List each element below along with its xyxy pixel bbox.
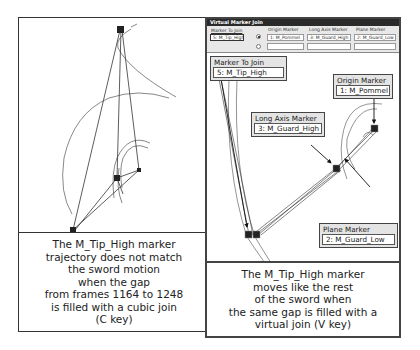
cubic-join-viewport [18, 17, 210, 233]
callout-marker-to-join: Marker To Join 5: M_Tip_High [210, 56, 287, 81]
caption-line: is filled with a cubic join [51, 301, 177, 314]
callout-plane-marker: Plane Marker 2: M_Guard_Low [319, 223, 398, 248]
caption-line: the same gap is filled with a [229, 306, 377, 319]
caption-line: virtual join (V key) [255, 318, 351, 331]
cubic-join-caption: The M_Tip_High marker trajectory does no… [18, 232, 210, 332]
guard-marker-icon [114, 175, 120, 181]
caption-line: (C key) [95, 313, 132, 326]
pommel-marker-icon [371, 125, 378, 132]
callout-title: Plane Marker [322, 225, 395, 234]
virtual-join-viewport: Virtual Marker Join Marker To Join 5: M_… [205, 17, 401, 263]
callout-value: 1: M_Pommel [336, 85, 390, 96]
callout-title: Origin Marker [336, 76, 390, 85]
caption-line: the sword motion [68, 263, 160, 276]
caption-line: The M_Tip_High marker [241, 268, 364, 281]
caption-line: of the sword when [254, 293, 351, 306]
caption-line: The M_Tip_High marker [52, 238, 175, 251]
caption-line: when the gap [78, 276, 150, 289]
tip-marker-icon [245, 231, 252, 238]
caption-line: trajectory does not match [46, 251, 183, 264]
callout-value: 2: M_Guard_Low [322, 234, 395, 245]
guard-low-marker-icon [253, 231, 260, 238]
pommel-marker-icon [137, 168, 141, 172]
callout-value: 3: M_Guard_High [254, 123, 322, 134]
cubic-join-trajectory-drawing [19, 18, 211, 234]
caption-line: from frames 1164 to 1248 [45, 288, 183, 301]
tip-marker-icon [117, 26, 124, 33]
guard-high-marker-icon [333, 165, 340, 172]
callout-title: Marker To Join [213, 58, 284, 67]
callout-origin-marker: Origin Marker 1: M_Pommel [333, 74, 393, 99]
callout-long-axis-marker: Long Axis Marker 3: M_Guard_High [251, 112, 325, 137]
callout-value: 5: M_Tip_High [213, 67, 284, 78]
callout-title: Long Axis Marker [254, 114, 322, 123]
caption-line: moves like the rest [253, 281, 353, 294]
virtual-join-caption: The M_Tip_High marker moves like the res… [205, 262, 401, 338]
